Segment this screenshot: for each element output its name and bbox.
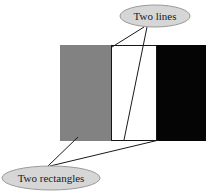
- two-lines-callout: Two lines: [120, 5, 190, 27]
- two-rectangles-leader-1: [48, 137, 78, 166]
- two-lines-leader-1: [112, 27, 144, 47]
- figure-canvas: Two lines Two rectangles: [0, 0, 221, 194]
- two-rectangles-leader-group: [48, 137, 159, 166]
- figure-svg: Two lines Two rectangles: [0, 0, 221, 194]
- two-rectangles-callout: Two rectangles: [2, 166, 100, 190]
- two-lines-callout-label: Two lines: [134, 10, 177, 22]
- two-rectangles-leader-2: [50, 140, 159, 166]
- two-rectangles-callout-label: Two rectangles: [18, 172, 85, 184]
- black-rectangle: [157, 45, 206, 141]
- gray-rectangle: [60, 45, 111, 141]
